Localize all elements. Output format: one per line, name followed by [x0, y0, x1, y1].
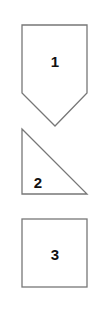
shape-3-square: 3: [22, 219, 87, 287]
shape-2-triangle: 2: [22, 129, 87, 194]
shapes-diagram: 1 2 3: [0, 0, 92, 327]
shape-2-label: 2: [34, 174, 42, 191]
shape-1-label: 1: [51, 53, 59, 70]
pentagon-shape: [22, 25, 87, 126]
shape-3-label: 3: [51, 246, 59, 263]
shape-1-pentagon: 1: [22, 25, 87, 126]
triangle-shape: [22, 129, 87, 194]
